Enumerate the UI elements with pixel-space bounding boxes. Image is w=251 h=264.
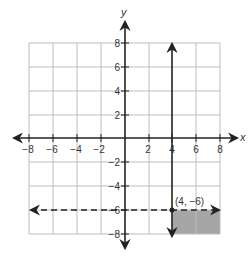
point-4-neg6	[170, 208, 175, 213]
x-tick-label: 2	[145, 144, 151, 155]
y-tick-label: 8	[114, 38, 120, 49]
x-tick-label: 6	[193, 144, 199, 155]
x-axis-label: x	[239, 131, 246, 143]
y-tick-label: 6	[114, 62, 120, 73]
y-tick-label: 2	[114, 110, 120, 121]
x-tick-label: −8	[22, 144, 34, 155]
y-tick-label: −8	[109, 229, 121, 240]
coordinate-plane: x y −8 −6 −4 −2 2 4 6 8 8 6 4 2 −2 −4 −6…	[0, 0, 251, 264]
x-tick-label: −2	[93, 144, 105, 155]
x-tick-label: −6	[46, 144, 58, 155]
y-axis-label: y	[120, 6, 128, 18]
x-tick-label: −4	[70, 144, 82, 155]
point-label: (4, −6)	[175, 196, 204, 207]
y-tick-label: −4	[109, 181, 121, 192]
y-tick-label: 4	[114, 86, 120, 97]
y-tick-label: −2	[109, 157, 121, 168]
x-tick-label: 8	[217, 144, 223, 155]
